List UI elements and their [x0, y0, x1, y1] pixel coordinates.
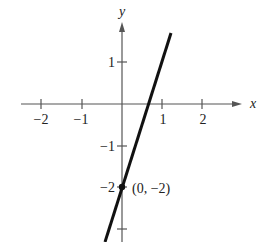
point-label: (0, −2)	[132, 181, 171, 197]
y-axis-arrow-icon	[119, 22, 125, 32]
coordinate-plane: −2 −1 1 2 1 −1 −2 x y (0, −2)	[0, 0, 266, 242]
x-tick-label: 1	[160, 112, 167, 127]
x-tick-label: 2	[200, 112, 207, 127]
x-axis-label: x	[249, 96, 257, 111]
y-axis-label: y	[117, 4, 126, 19]
x-tick-label: −2	[34, 112, 49, 127]
y-tick-label: −1	[100, 139, 115, 154]
y-tick-label: −2	[100, 180, 115, 195]
x-axis-arrow-icon	[232, 101, 242, 107]
intercept-point	[119, 184, 125, 190]
y-tick-label: 1	[108, 55, 115, 70]
x-tick-label: −1	[74, 112, 89, 127]
